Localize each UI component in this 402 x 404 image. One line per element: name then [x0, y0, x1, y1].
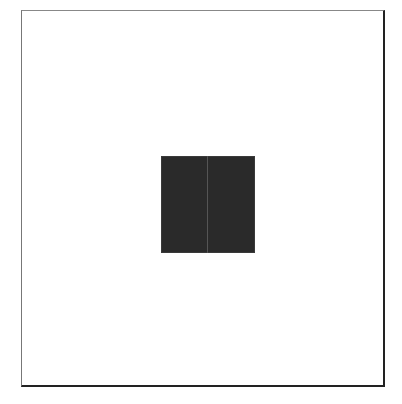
vertical-seam: [207, 156, 208, 253]
dark-square: [161, 156, 255, 253]
